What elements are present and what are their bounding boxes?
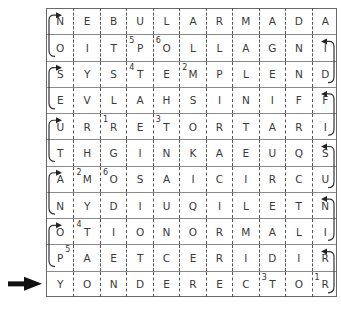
grid-cell[interactable]: N	[285, 35, 311, 60]
grid-cell[interactable]: H	[153, 88, 179, 113]
grid-cell[interactable]: L	[285, 219, 311, 244]
grid-cell[interactable]: E	[153, 62, 179, 87]
grid-cell[interactable]: R	[285, 114, 311, 139]
grid-cell[interactable]: T	[232, 114, 258, 139]
grid-cell[interactable]: P5	[126, 35, 152, 60]
grid-cell[interactable]: I	[232, 167, 258, 192]
grid-cell[interactable]: I	[206, 88, 232, 113]
grid-cell[interactable]: R	[206, 8, 232, 34]
grid-cell[interactable]: Y	[73, 193, 99, 218]
grid-cell[interactable]: C	[153, 245, 179, 270]
grid-cell[interactable]: E	[47, 88, 73, 113]
grid-cell[interactable]: O6	[100, 167, 126, 192]
grid-cell[interactable]: N	[285, 62, 311, 87]
grid-cell[interactable]: D	[126, 272, 152, 297]
grid-cell[interactable]: R1	[312, 272, 338, 297]
grid-cell[interactable]: O	[47, 219, 73, 244]
grid-cell[interactable]: M2	[179, 62, 205, 87]
grid-cell[interactable]: L	[153, 8, 179, 34]
grid-cell[interactable]: Y	[47, 272, 73, 297]
grid-cell[interactable]: U	[126, 8, 152, 34]
grid-cell[interactable]: L	[232, 62, 258, 87]
grid-cell[interactable]: O	[47, 35, 73, 60]
grid-cell[interactable]: R1	[100, 114, 126, 139]
grid-cell[interactable]: A	[232, 35, 258, 60]
grid-cell[interactable]: T	[126, 245, 152, 270]
grid-cell[interactable]: K	[179, 140, 205, 165]
grid-cell[interactable]: I	[312, 219, 338, 244]
grid-cell[interactable]: S	[126, 167, 152, 192]
grid-cell[interactable]: A	[259, 8, 285, 34]
grid-cell[interactable]: R	[312, 245, 338, 270]
grid-cell[interactable]: I	[126, 193, 152, 218]
grid-cell[interactable]: I	[73, 35, 99, 60]
grid-cell[interactable]: O	[179, 114, 205, 139]
grid-cell[interactable]: I	[206, 193, 232, 218]
grid-cell[interactable]: E	[100, 245, 126, 270]
grid-cell[interactable]: R	[206, 245, 232, 270]
grid-cell[interactable]: B	[100, 8, 126, 34]
grid-cell[interactable]: I	[312, 35, 338, 60]
grid-cell[interactable]: T4	[126, 62, 152, 87]
grid-cell[interactable]: A	[206, 140, 232, 165]
grid-cell[interactable]: D	[100, 193, 126, 218]
grid-cell[interactable]: E	[259, 62, 285, 87]
grid-cell[interactable]: T	[47, 140, 73, 165]
grid-cell[interactable]: T	[100, 35, 126, 60]
grid-cell[interactable]: E	[73, 8, 99, 34]
grid-cell[interactable]: N	[153, 140, 179, 165]
grid-cell[interactable]: T3	[259, 272, 285, 297]
grid-cell[interactable]: C	[206, 167, 232, 192]
grid-cell[interactable]: M	[232, 8, 258, 34]
grid-cell[interactable]: P5	[47, 245, 73, 270]
grid-cell[interactable]: I	[179, 167, 205, 192]
grid-cell[interactable]: M	[232, 219, 258, 244]
grid-cell[interactable]: S	[100, 62, 126, 87]
grid-cell[interactable]: I	[126, 140, 152, 165]
grid-cell[interactable]: E	[259, 193, 285, 218]
grid-cell[interactable]: R	[206, 114, 232, 139]
grid-cell[interactable]: N	[100, 272, 126, 297]
grid-cell[interactable]: L	[206, 35, 232, 60]
grid-cell[interactable]: F	[312, 88, 338, 113]
grid-cell[interactable]: I	[100, 219, 126, 244]
grid-cell[interactable]: U	[312, 167, 338, 192]
grid-cell[interactable]: A	[259, 219, 285, 244]
grid-cell[interactable]: O6	[153, 35, 179, 60]
grid-cell[interactable]: N	[47, 8, 73, 34]
grid-cell[interactable]: A	[312, 8, 338, 34]
grid-cell[interactable]: Q	[285, 140, 311, 165]
grid-cell[interactable]: G	[100, 140, 126, 165]
grid-cell[interactable]: I	[285, 245, 311, 270]
grid-cell[interactable]: O	[179, 219, 205, 244]
grid-cell[interactable]: R	[259, 167, 285, 192]
grid-cell[interactable]: T3	[153, 114, 179, 139]
grid-cell[interactable]: A	[73, 245, 99, 270]
grid-cell[interactable]: O	[73, 272, 99, 297]
grid-cell[interactable]: A	[126, 88, 152, 113]
grid-cell[interactable]: I	[259, 88, 285, 113]
grid-cell[interactable]: H	[73, 140, 99, 165]
grid-cell[interactable]: Q	[179, 193, 205, 218]
grid-cell[interactable]: O	[126, 219, 152, 244]
grid-cell[interactable]: I	[312, 114, 338, 139]
grid-cell[interactable]: E	[206, 272, 232, 297]
grid-cell[interactable]: D	[312, 62, 338, 87]
grid-cell[interactable]: D	[285, 8, 311, 34]
grid-cell[interactable]: I	[232, 245, 258, 270]
grid-cell[interactable]: L	[232, 193, 258, 218]
grid-cell[interactable]: C	[232, 272, 258, 297]
grid-cell[interactable]: A	[153, 167, 179, 192]
grid-cell[interactable]: A	[179, 8, 205, 34]
grid-cell[interactable]: Y	[73, 62, 99, 87]
grid-cell[interactable]: A	[47, 167, 73, 192]
grid-cell[interactable]: N	[312, 193, 338, 218]
grid-cell[interactable]: C	[285, 167, 311, 192]
grid-cell[interactable]: S	[47, 62, 73, 87]
grid-cell[interactable]: U	[47, 114, 73, 139]
grid-cell[interactable]: L	[179, 35, 205, 60]
grid-cell[interactable]: L	[100, 88, 126, 113]
grid-cell[interactable]: E	[126, 114, 152, 139]
grid-cell[interactable]: R	[206, 219, 232, 244]
grid-cell[interactable]: E	[153, 272, 179, 297]
